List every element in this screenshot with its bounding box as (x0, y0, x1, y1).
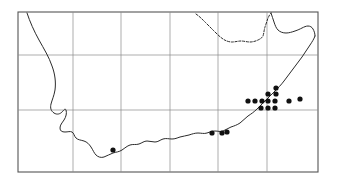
distribution-map-figure (0, 0, 337, 186)
occurrence-dot (265, 98, 270, 103)
occurrence-dot (297, 96, 302, 101)
map-frame-border (18, 12, 318, 172)
occurrence-dot (258, 105, 263, 110)
occurrence-dot (273, 91, 278, 96)
occurrence-dot (272, 98, 277, 103)
occurrence-dot (272, 105, 277, 110)
occurrence-dot (224, 129, 229, 134)
occurrence-dot (265, 105, 270, 110)
map-canvas (0, 0, 337, 186)
occurrence-dot (209, 130, 214, 135)
occurrence-dot (259, 98, 264, 103)
occurrence-dot (273, 85, 278, 90)
occurrence-dot (245, 98, 250, 103)
occurrence-dot (265, 91, 270, 96)
occurrence-dot (286, 98, 291, 103)
occurrence-dot (252, 98, 257, 103)
occurrence-dot (110, 147, 115, 152)
occurrence-dot (219, 130, 224, 135)
